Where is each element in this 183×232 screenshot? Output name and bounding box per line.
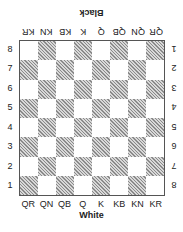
square-dark xyxy=(56,137,74,156)
square-dark xyxy=(146,41,164,60)
square-light xyxy=(92,41,110,60)
file-label-black: QR xyxy=(147,27,165,37)
square-light xyxy=(92,157,110,176)
rank-label: 2 xyxy=(5,161,15,171)
square-dark xyxy=(128,60,146,79)
square-dark xyxy=(92,60,110,79)
square-light xyxy=(92,80,110,99)
rank-label: 1 xyxy=(5,180,15,190)
square-light xyxy=(56,118,74,137)
square-dark xyxy=(110,41,128,60)
file-label: K xyxy=(92,199,110,209)
rank-label: 5 xyxy=(5,102,15,112)
square-dark xyxy=(56,99,74,118)
file-label-black: KR xyxy=(19,27,37,37)
square-dark xyxy=(56,176,74,195)
rank-label-black: 1 xyxy=(169,44,179,54)
rank-label: 6 xyxy=(5,83,15,93)
square-dark xyxy=(20,60,38,79)
rank-label-black: 2 xyxy=(169,63,179,73)
rank-label: 8 xyxy=(5,44,15,54)
file-label: Q xyxy=(74,199,92,209)
rank-label: 4 xyxy=(5,122,15,132)
square-dark xyxy=(20,137,38,156)
file-label-black: QN xyxy=(129,27,147,37)
square-light xyxy=(128,157,146,176)
square-dark xyxy=(92,137,110,156)
square-light xyxy=(110,176,128,195)
square-dark xyxy=(38,118,56,137)
square-dark xyxy=(128,137,146,156)
square-dark xyxy=(128,176,146,195)
square-dark xyxy=(74,80,92,99)
square-light xyxy=(38,99,56,118)
square-dark xyxy=(20,176,38,195)
black-label: Black xyxy=(0,8,183,18)
square-light xyxy=(56,80,74,99)
file-label: QB xyxy=(56,199,74,209)
square-light xyxy=(146,176,164,195)
square-light xyxy=(74,99,92,118)
file-label-black: KN xyxy=(37,27,55,37)
square-light xyxy=(146,137,164,156)
square-light xyxy=(20,41,38,60)
square-light xyxy=(110,99,128,118)
square-light xyxy=(128,41,146,60)
square-dark xyxy=(110,80,128,99)
square-dark xyxy=(92,99,110,118)
square-light xyxy=(56,157,74,176)
file-label: QN xyxy=(37,199,55,209)
file-label-black: Q xyxy=(92,27,110,37)
file-label: KR xyxy=(147,199,165,209)
square-dark xyxy=(128,99,146,118)
square-light xyxy=(38,176,56,195)
rank-label-black: 4 xyxy=(169,102,179,112)
square-dark xyxy=(38,41,56,60)
square-light xyxy=(92,118,110,137)
square-dark xyxy=(146,157,164,176)
square-dark xyxy=(56,60,74,79)
square-dark xyxy=(74,41,92,60)
square-light xyxy=(38,137,56,156)
square-dark xyxy=(20,99,38,118)
square-dark xyxy=(38,80,56,99)
square-light xyxy=(74,60,92,79)
file-label: KN xyxy=(129,199,147,209)
square-light xyxy=(146,60,164,79)
file-label: QR xyxy=(19,199,37,209)
square-light xyxy=(74,176,92,195)
square-dark xyxy=(74,157,92,176)
square-dark xyxy=(146,80,164,99)
file-label-black: K xyxy=(74,27,92,37)
square-light xyxy=(56,41,74,60)
square-dark xyxy=(38,157,56,176)
square-light xyxy=(20,118,38,137)
square-light xyxy=(74,137,92,156)
square-dark xyxy=(92,176,110,195)
chessboard xyxy=(19,40,165,196)
rank-label: 3 xyxy=(5,141,15,151)
square-dark xyxy=(110,157,128,176)
rank-label-black: 8 xyxy=(169,180,179,190)
rank-label: 7 xyxy=(5,63,15,73)
square-light xyxy=(20,157,38,176)
square-light xyxy=(38,60,56,79)
square-dark xyxy=(146,118,164,137)
square-light xyxy=(128,80,146,99)
rank-label-black: 5 xyxy=(169,122,179,132)
rank-label-black: 3 xyxy=(169,83,179,93)
file-label-black: QB xyxy=(110,27,128,37)
square-dark xyxy=(110,118,128,137)
square-light xyxy=(110,137,128,156)
rank-label-black: 7 xyxy=(169,161,179,171)
file-label: KB xyxy=(110,199,128,209)
square-light xyxy=(146,99,164,118)
square-light xyxy=(20,80,38,99)
rank-label-black: 6 xyxy=(169,141,179,151)
square-light xyxy=(110,60,128,79)
white-label: White xyxy=(0,210,183,220)
square-dark xyxy=(74,118,92,137)
square-light xyxy=(128,118,146,137)
file-label-black: KB xyxy=(56,27,74,37)
